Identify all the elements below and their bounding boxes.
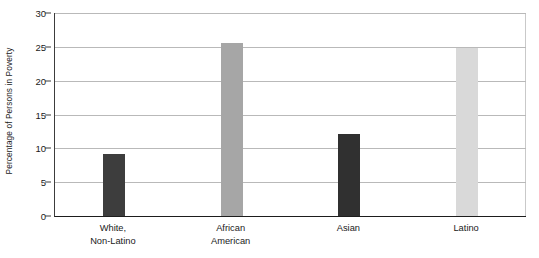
y-axis-tick-mark (45, 46, 51, 47)
y-axis-tick-mark (45, 114, 51, 115)
x-axis-tick-label: Asian (337, 222, 360, 235)
x-axis-tick-label: AfricanAmerican (211, 222, 250, 247)
y-axis-tick-labels: 051015202530 (20, 8, 48, 218)
y-axis-tick-mark (45, 148, 51, 149)
bar (221, 43, 243, 216)
x-axis-tick-label-line1: White, (100, 223, 126, 233)
x-axis-tick-label-line1: African (216, 223, 245, 233)
x-axis-tick-label: Latino (453, 222, 478, 235)
x-axis-tick-label-line2: Non-Latino (90, 235, 135, 248)
y-axis-tick-mark (45, 216, 51, 217)
y-axis-tick-mark (45, 80, 51, 81)
bar (338, 134, 360, 216)
x-axis-tick-label-line2: American (211, 235, 250, 248)
y-axis-tick-mark (45, 13, 51, 14)
y-axis-title: Percentage of Persons in Poverty (0, 0, 18, 222)
x-axis-tick-label-line1: Asian (337, 223, 360, 233)
gridline (55, 13, 526, 14)
y-axis-tick-mark (45, 182, 51, 183)
x-axis-tick-label: White,Non-Latino (90, 222, 135, 247)
x-axis-tick-labels: White,Non-LatinoAfricanAmericanAsianLati… (54, 222, 525, 258)
poverty-bar-chart: Percentage of Persons in Poverty 0510152… (0, 0, 539, 258)
y-axis-title-text: Percentage of Persons in Poverty (4, 48, 14, 175)
bar (103, 154, 125, 216)
x-axis-tick-label-line1: Latino (453, 223, 478, 233)
bar (456, 48, 478, 216)
plot-area (54, 13, 526, 217)
